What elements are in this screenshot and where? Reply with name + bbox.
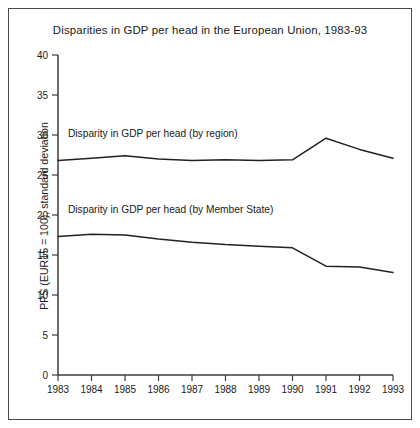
series-annotations-group: Disparity in GDP per head (by region)Dis… — [68, 128, 273, 215]
chart-figure: Disparities in GDP per head in the Europ… — [0, 0, 420, 428]
x-tick-label: 1989 — [248, 384, 271, 395]
x-axis-ticks: 1983198419851986198719881989199019911992… — [47, 375, 405, 395]
x-tick-label: 1986 — [147, 384, 170, 395]
x-tick-label: 1993 — [382, 384, 405, 395]
y-tick-label: 35 — [37, 90, 49, 101]
x-tick-label: 1991 — [315, 384, 338, 395]
x-tick-label: 1988 — [214, 384, 237, 395]
x-tick-label: 1992 — [348, 384, 371, 395]
data-series-line — [58, 138, 393, 160]
plot-area: 0510152025303540 19831984198519861987198… — [0, 0, 420, 428]
x-tick-label: 1984 — [80, 384, 103, 395]
x-tick-label: 1985 — [114, 384, 137, 395]
y-axis-ticks: 0510152025303540 — [37, 50, 58, 381]
y-tick-label: 5 — [42, 330, 48, 341]
y-tick-label: 0 — [42, 370, 48, 381]
y-tick-label: 40 — [37, 50, 49, 61]
x-tick-label: 1987 — [181, 384, 204, 395]
x-tick-label: 1983 — [47, 384, 70, 395]
data-series-line — [58, 234, 393, 272]
series-annotation-label: Disparity in GDP per head (by Member Sta… — [68, 204, 273, 215]
x-tick-label: 1990 — [281, 384, 304, 395]
y-tick-label: 15 — [37, 250, 49, 261]
y-tick-label: 25 — [37, 170, 49, 181]
y-tick-label: 30 — [37, 130, 49, 141]
y-tick-label: 10 — [37, 290, 49, 301]
y-tick-label: 20 — [37, 210, 49, 221]
series-annotation-label: Disparity in GDP per head (by region) — [68, 128, 238, 139]
